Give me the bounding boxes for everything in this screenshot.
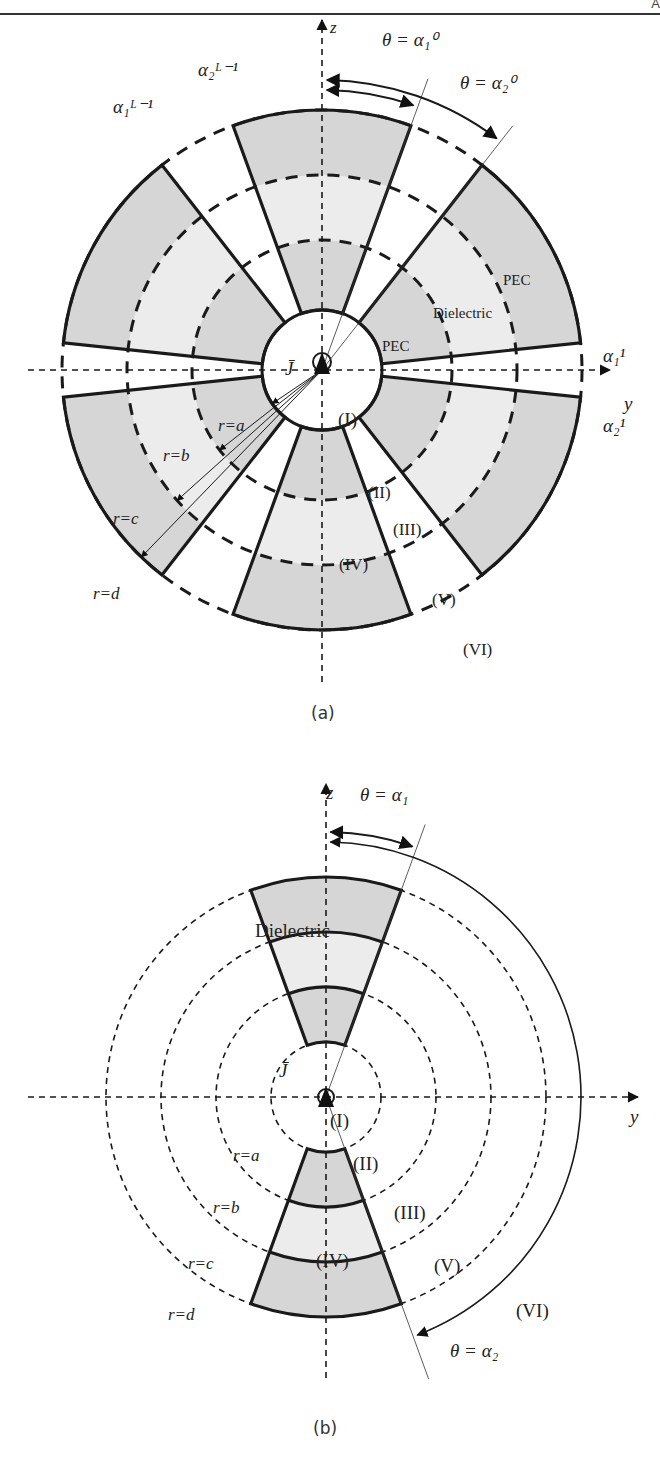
figure-b-caption: (b) <box>313 1418 337 1438</box>
fig-a-region-VI: (VI) <box>463 640 492 660</box>
fig-b-region-IV: (IV) <box>316 1250 349 1272</box>
fig-b-theta-alpha1: θ = α₁ <box>360 784 408 806</box>
fig-a-region-I: (I) <box>338 409 357 431</box>
fig-b-region-VI: (VI) <box>516 1300 549 1322</box>
fig-a-region-IV: (IV) <box>339 555 368 575</box>
fig-b-region-V: (V) <box>434 1255 460 1277</box>
fig-b-r-b-label: r=b <box>213 1198 240 1218</box>
fig-a-alpha1-1: α₁¹ <box>603 345 625 367</box>
fig-b-r-a-label: r=a <box>233 1146 260 1166</box>
fig-a-y-axis-label: y <box>624 393 632 415</box>
fig-b-r-d-label: r=d <box>168 1305 195 1325</box>
fig-a-alpha2-1: α₂¹ <box>603 415 625 437</box>
fig-a-region-III: (III) <box>393 520 421 540</box>
fig-b-region-II: (II) <box>353 1153 378 1175</box>
fig-a-r-d-label: r=d <box>93 584 120 604</box>
figure-b-diagram <box>28 784 638 1379</box>
fig-a-alpha1-L-1: α₁ᴸ⁻¹ <box>113 95 153 118</box>
fig-a-pec-inner-label: PEC <box>382 338 410 355</box>
figure-canvas <box>0 0 660 1463</box>
fig-a-z-axis-label: z <box>330 18 337 38</box>
fig-a-theta-alpha2-0: θ = α₂⁰ <box>460 71 516 94</box>
fig-a-r-a-label: r=a <box>218 416 245 436</box>
fig-b-dielectric-label: Dielectric <box>255 920 330 942</box>
fig-a-pec-outer-label: PEC <box>503 272 531 289</box>
figure-a-diagram <box>28 20 610 682</box>
fig-b-r-c-label: r=c <box>188 1254 214 1274</box>
fig-b-region-III: (III) <box>394 1202 426 1224</box>
fig-a-r-c-label: r=c <box>113 509 139 529</box>
fig-b-y-axis-label: y <box>630 1106 638 1128</box>
figure-a-caption: (a) <box>311 703 335 723</box>
fig-a-region-V: (V) <box>432 590 456 610</box>
fig-a-r-b-label: r=b <box>163 446 190 466</box>
fig-a-alpha2-L-1: α₂ᴸ⁻¹ <box>198 58 238 81</box>
fig-b-z-axis-label: z <box>326 782 333 804</box>
fig-b-region-I: (I) <box>330 1110 349 1132</box>
fig-a-region-II: (II) <box>368 483 391 503</box>
fig-a-source-J-label: J̄ <box>285 358 293 380</box>
fig-b-source-J-label: J̄ <box>279 1060 287 1082</box>
fig-a-theta-alpha1-0: θ = α₁⁰ <box>382 28 438 51</box>
fig-b-theta-alpha2: θ = α₂ <box>450 1340 498 1362</box>
fig-a-dielectric-label: Dielectric <box>433 305 492 322</box>
